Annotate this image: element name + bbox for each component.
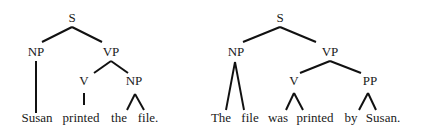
tree-edge: [286, 93, 294, 110]
word: printed: [63, 110, 100, 125]
tree-edge: [111, 61, 128, 73]
tree-edge: [135, 94, 144, 110]
node-np-subject: NP: [28, 44, 45, 59]
node-pp: PP: [363, 73, 377, 88]
tree-edge: [235, 62, 244, 110]
tree-edge: [42, 27, 72, 42]
tree-edges: [36, 27, 144, 113]
word: the: [111, 110, 127, 125]
tree-edge: [368, 93, 376, 110]
word: The: [211, 110, 231, 125]
sentence-words: The file was printed by Susan.: [211, 110, 400, 125]
passive-sentence-tree: S NP VP V PP The file was printed by Sus…: [211, 10, 400, 125]
node-vp: VP: [103, 44, 120, 59]
node-vp: VP: [322, 44, 339, 59]
tree-edge: [226, 62, 235, 110]
word: printed: [297, 110, 334, 125]
tree-edge: [300, 61, 330, 73]
node-s: S: [68, 10, 75, 25]
tree-edge: [359, 93, 368, 110]
word: Susan: [21, 110, 53, 125]
word: file: [241, 110, 259, 125]
node-v: V: [289, 73, 299, 88]
tree-edge: [280, 27, 316, 42]
tree-edges: [226, 27, 376, 110]
word: was: [268, 110, 288, 125]
node-np-subject: NP: [228, 44, 245, 59]
tree-edge: [330, 61, 361, 73]
node-s: S: [276, 10, 283, 25]
node-v: V: [79, 73, 89, 88]
tree-edge: [94, 61, 111, 73]
tree-edge: [127, 94, 135, 110]
parse-tree-figure: S NP VP V NP Susan printed the file. S N…: [0, 0, 421, 134]
word: file.: [138, 110, 159, 125]
active-sentence-tree: S NP VP V NP Susan printed the file.: [21, 10, 158, 125]
sentence-words: Susan printed the file.: [21, 110, 158, 125]
node-np-object: NP: [126, 73, 143, 88]
tree-edge: [294, 93, 303, 110]
tree-edge: [243, 27, 280, 42]
word: Susan.: [366, 110, 400, 125]
tree-edge: [72, 27, 102, 42]
word: by: [345, 110, 359, 125]
